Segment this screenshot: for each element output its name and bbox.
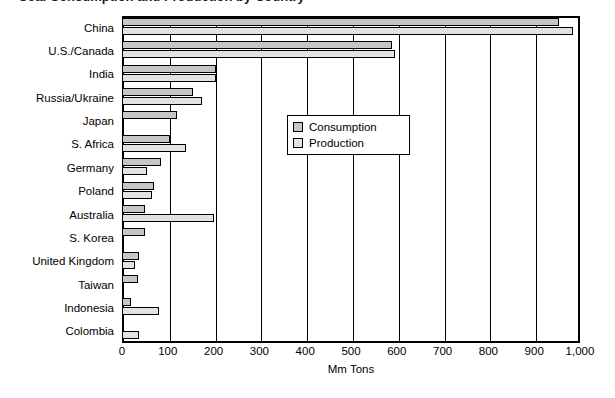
bar-row [122,250,580,273]
page-title: Coal Consumption and Production by Count… [18,0,305,4]
x-tick-label: 600 [387,345,406,357]
bar-consumption [122,298,131,306]
bar-production [122,144,186,152]
bar-production [122,261,135,269]
bar-consumption [122,158,161,166]
bar-production [122,307,159,315]
category-label: China [84,22,114,34]
category-label: Australia [69,209,114,221]
category-label: United Kingdom [32,255,114,267]
bar-consumption [122,182,154,190]
x-axis-title: Mm Tons [122,363,580,375]
bar-production [122,97,202,105]
x-tick-label: 400 [296,345,315,357]
category-label: U.S./Canada [48,45,114,57]
legend: Consumption Production [287,115,410,155]
legend-swatch-consumption [293,122,303,132]
legend-label-consumption: Consumption [309,121,377,133]
bar-row [122,296,580,319]
bar-consumption [122,65,216,73]
bar-consumption [122,228,145,236]
bar-production [122,237,124,245]
bar-row [122,39,580,62]
bar-consumption [122,88,193,96]
bar-production [122,284,124,292]
cropped-title-strip: Coal Consumption and Production by Count… [0,0,615,11]
category-axis-labels: ChinaU.S./CanadaIndiaRussia/UkraineJapan… [0,16,118,343]
legend-item-production: Production [293,135,404,151]
bar-row [122,273,580,296]
bar-consumption [122,41,392,49]
x-tick-label: 100 [158,345,177,357]
bar-consumption [122,252,139,260]
category-label: S. Africa [71,138,114,150]
category-label: S. Korea [69,232,114,244]
legend-label-production: Production [309,137,364,149]
x-tick-label: 800 [479,345,498,357]
x-tick-label: 700 [433,345,452,357]
bar-consumption [122,275,138,283]
bar-row [122,320,580,343]
bar-production [122,191,152,199]
bar-row [122,16,580,39]
category-label: Indonesia [64,302,114,314]
bar-row [122,63,580,86]
x-tick-label: 0 [119,345,125,357]
bar-consumption [122,205,145,213]
bar-row [122,180,580,203]
bar-production [122,27,573,35]
x-tick-label: 900 [525,345,544,357]
x-tick-label: 200 [204,345,223,357]
bar-production [122,167,147,175]
bar-production [122,214,214,222]
bar-production [122,120,124,128]
coal-bar-chart: Coal Consumption and Production by Count… [0,0,615,398]
x-tick-label: 300 [250,345,269,357]
category-label: India [89,68,114,80]
category-label: Japan [83,115,114,127]
category-label: Russia/Ukraine [36,92,114,104]
bar-row [122,156,580,179]
bar-consumption [122,322,124,330]
bar-row [122,203,580,226]
bar-production [122,331,139,339]
category-label: Germany [67,162,114,174]
category-label: Taiwan [78,279,114,291]
category-label: Poland [78,185,114,197]
x-axis-ticks: 01002003004005006007008009001,000 [122,345,580,361]
bar-consumption [122,18,559,26]
x-tick-label: 1,000 [566,345,595,357]
bar-row [122,86,580,109]
legend-swatch-production [293,138,303,148]
bar-row [122,226,580,249]
bar-rows [122,16,580,343]
bar-consumption [122,135,170,143]
bar-consumption [122,111,177,119]
x-tick-label: 500 [341,345,360,357]
legend-item-consumption: Consumption [293,119,404,135]
bar-production [122,74,216,82]
bar-production [122,50,395,58]
category-label: Colombia [65,325,114,337]
